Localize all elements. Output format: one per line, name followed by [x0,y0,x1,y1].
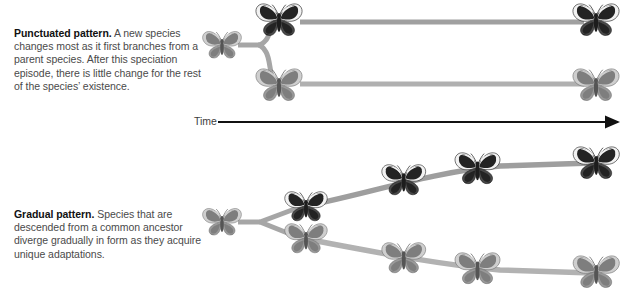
butterfly-icon-gradual-ancestor [201,205,243,243]
butterfly-icon-punctuated-lower-lineage-0 [254,65,304,109]
butterfly-icon-gradual-lower-lineage-3 [571,252,622,291]
figure-canvas: Time Punctuated pattern. A new species c… [0,0,643,291]
butterfly-icon-gradual-upper-lineage-3 [571,143,622,187]
caption-gradual: Gradual pattern. Species that are descen… [14,208,204,261]
caption-punctuated: Punctuated pattern. A new species change… [14,27,204,93]
butterfly-icon-gradual-lower-lineage-1 [380,239,428,281]
time-axis-label: Time [194,115,217,127]
gradual-upper-line [300,163,592,207]
gradual-lower-line [300,238,592,273]
butterfly-icon-gradual-lower-lineage-0 [283,220,329,261]
caption-punctuated-lead: Punctuated pattern. [14,27,112,39]
caption-gradual-lead: Gradual pattern. [14,208,94,220]
butterfly-icon-punctuated-upper-lineage-0 [254,0,304,44]
butterfly-icon-punctuated-lower-lineage-1 [571,65,621,109]
butterfly-icon-gradual-upper-lineage-2 [453,149,502,192]
butterfly-icon-gradual-upper-lineage-1 [380,161,428,203]
butterfly-icon-punctuated-ancestor [201,28,243,66]
butterfly-icon-punctuated-upper-lineage-1 [571,0,621,44]
butterfly-icon-gradual-lower-lineage-2 [453,249,502,291]
